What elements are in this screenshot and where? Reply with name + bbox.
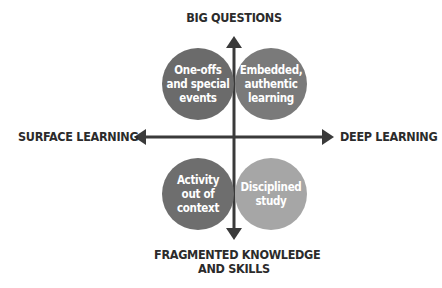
quadrant-bottom-right: Disciplinedstudy <box>235 158 307 230</box>
quadrant-top-left: One-offsand specialevents <box>162 48 234 120</box>
quadrant-bottom-left: Activityout ofcontext <box>162 158 234 230</box>
axis-label-left: SURFACE LEARNING <box>18 130 128 144</box>
axes-arrows <box>0 0 442 288</box>
quadrant-top-right: Embedded,authenticlearning <box>235 48 307 120</box>
axis-label-bottom: FRAGMENTED KNOWLEDGE AND SKILLS <box>154 248 314 276</box>
axis-label-right: DEEP LEARNING <box>340 130 436 144</box>
